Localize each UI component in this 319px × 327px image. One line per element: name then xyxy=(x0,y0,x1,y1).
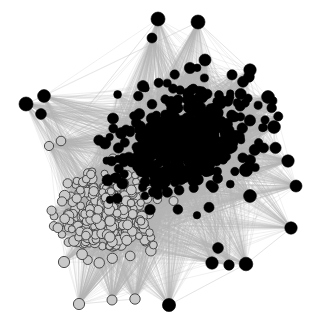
network-graph-figure: Force-directed network graph xyxy=(0,0,319,327)
network-graph-canvas xyxy=(0,0,319,327)
